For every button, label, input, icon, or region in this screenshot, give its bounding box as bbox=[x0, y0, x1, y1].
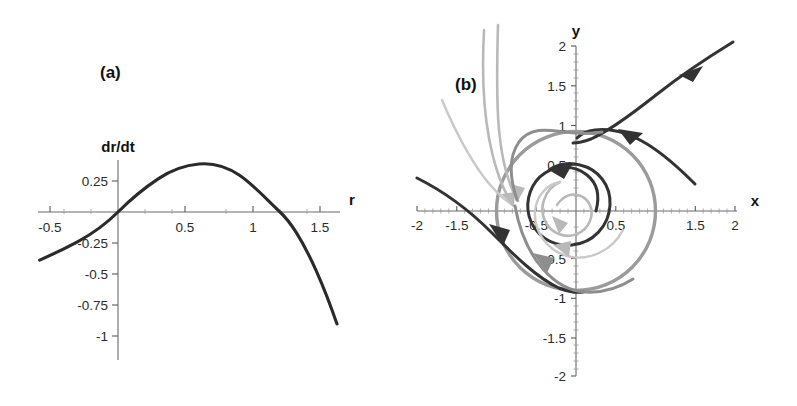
panel-b-y-axis-name: y bbox=[572, 22, 581, 39]
panel-b-ytick-7: -2 bbox=[554, 369, 566, 384]
panel-a-xtick-2: 1 bbox=[249, 220, 257, 235]
panel-b-xtick-1: -1.5 bbox=[445, 218, 468, 233]
panel-a-x-axis-name: r bbox=[349, 191, 355, 208]
panel-a-y-major-ticks bbox=[112, 181, 118, 336]
panel-b-ytick-5: -1 bbox=[554, 291, 566, 306]
panel-b-ytick-0: 2 bbox=[558, 39, 566, 54]
panel-b-ytick-1: 1.5 bbox=[547, 79, 566, 94]
figure-container: (a) -0.5 bbox=[0, 0, 797, 406]
panel-a-y-axis-name: dr/dt bbox=[101, 138, 134, 155]
panel-a-label: (a) bbox=[100, 63, 121, 82]
panel-b-xtick-4: 1.5 bbox=[686, 218, 705, 233]
panel-b-xtick-0: -2 bbox=[411, 218, 423, 233]
panel-b-x-axis-name: x bbox=[751, 192, 760, 209]
panel-b-label: (b) bbox=[455, 75, 477, 94]
panel-b-chart: (b) bbox=[397, 0, 797, 406]
panel-a-ytick-0: 0.25 bbox=[82, 174, 108, 189]
panel-a-ytick-3: -0.75 bbox=[77, 298, 108, 313]
panel-a-ytick-4: -1 bbox=[96, 329, 108, 344]
panel-a-ytick-2: -0.5 bbox=[85, 267, 108, 282]
panel-a-xtick-1: 0.5 bbox=[176, 220, 195, 235]
outer-trajectory-top-right bbox=[573, 42, 733, 143]
panel-a-xtick-3: 1.5 bbox=[311, 220, 330, 235]
incoming-trajectory-1 bbox=[497, 25, 518, 201]
panel-a-chart: (a) -0.5 bbox=[0, 0, 400, 406]
panel-b-ytick-6: -1.5 bbox=[543, 331, 566, 346]
outer-arrow-right bbox=[618, 129, 643, 145]
panel-a-xtick-0: -0.5 bbox=[38, 220, 61, 235]
panel-b-xtick-5: 2 bbox=[731, 218, 739, 233]
